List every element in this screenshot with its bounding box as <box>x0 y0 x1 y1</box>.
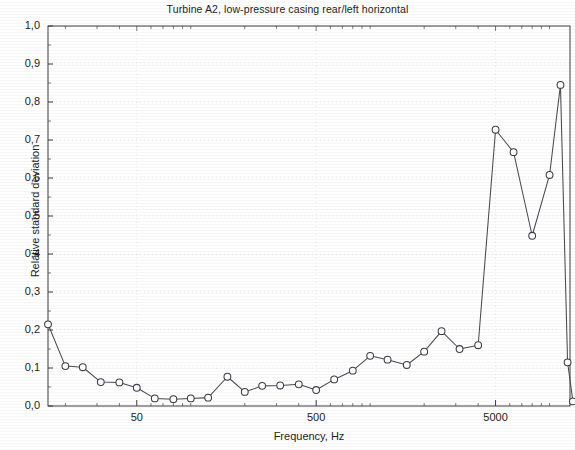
data-point-marker <box>224 373 231 380</box>
data-point-marker <box>241 389 248 396</box>
data-point-marker <box>45 321 52 328</box>
data-point-marker <box>529 232 536 239</box>
data-point-marker <box>331 376 338 383</box>
data-point-markers <box>45 82 575 405</box>
data-point-marker <box>313 387 320 394</box>
data-point-marker <box>456 346 463 353</box>
data-point-marker <box>170 396 177 403</box>
data-point-marker <box>133 384 140 391</box>
data-point-marker <box>403 362 410 369</box>
data-point-marker <box>570 398 575 405</box>
data-point-marker <box>62 363 69 370</box>
data-point-marker <box>259 382 266 389</box>
grid-lines <box>48 26 570 406</box>
data-point-marker <box>564 359 571 366</box>
data-point-marker <box>421 348 428 355</box>
data-point-marker <box>79 364 86 371</box>
data-point-marker <box>384 356 391 363</box>
data-point-marker <box>97 379 104 386</box>
data-point-marker <box>151 395 158 402</box>
data-point-marker <box>205 394 212 401</box>
data-point-marker <box>367 352 374 359</box>
data-point-marker <box>349 367 356 374</box>
axis-ticks <box>48 26 550 406</box>
data-point-marker <box>116 379 123 386</box>
data-point-marker <box>187 395 194 402</box>
data-point-marker <box>510 149 517 156</box>
data-point-marker <box>295 381 302 388</box>
data-point-marker <box>546 172 553 179</box>
data-point-marker <box>438 328 445 335</box>
data-point-marker <box>557 82 564 89</box>
data-point-marker <box>492 126 499 133</box>
plot-area <box>0 0 575 450</box>
chart-figure: Turbine A2, low-pressure casing rear/lef… <box>0 0 575 450</box>
data-point-marker <box>475 342 482 349</box>
data-point-marker <box>277 382 284 389</box>
